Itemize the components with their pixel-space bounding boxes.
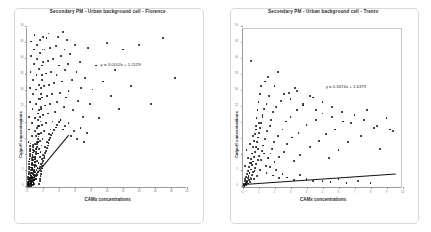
data-point	[29, 148, 31, 150]
data-point	[28, 163, 30, 165]
data-point	[250, 158, 252, 160]
data-point	[37, 112, 39, 114]
data-point	[254, 151, 256, 153]
data-point	[275, 106, 277, 108]
data-point	[41, 74, 43, 76]
data-point	[46, 95, 48, 97]
data-point	[48, 139, 50, 141]
data-point	[68, 122, 70, 124]
x-tick	[259, 187, 260, 189]
x-tick	[275, 187, 276, 189]
x-tick	[339, 187, 340, 189]
y-tick-label: 0	[22, 184, 24, 187]
data-point	[36, 148, 38, 150]
data-point	[34, 164, 36, 166]
data-point	[318, 140, 320, 142]
data-point	[274, 85, 276, 87]
data-point	[32, 79, 34, 81]
data-point	[43, 157, 45, 159]
data-point	[28, 128, 30, 130]
data-point	[70, 135, 72, 137]
y-tick	[25, 170, 27, 171]
data-point	[57, 36, 59, 38]
data-point	[30, 55, 32, 57]
data-point	[33, 63, 35, 65]
data-point	[38, 148, 40, 150]
data-point	[42, 138, 44, 140]
y-tick	[25, 42, 27, 43]
data-point	[38, 98, 40, 100]
data-point	[288, 92, 290, 94]
data-point	[312, 96, 314, 98]
data-point	[69, 53, 71, 55]
data-point	[68, 90, 70, 92]
data-point	[36, 58, 38, 60]
y-tick	[241, 74, 243, 75]
data-point	[342, 120, 344, 122]
data-point	[256, 141, 258, 143]
data-point	[44, 152, 46, 154]
data-point	[36, 146, 38, 148]
data-point	[39, 116, 41, 118]
data-point	[41, 64, 43, 66]
data-point	[254, 167, 256, 169]
data-point	[27, 181, 29, 183]
data-point	[65, 96, 67, 98]
data-point	[267, 76, 269, 78]
plot-wrap-right: 01234567891005101520253035404550y = 0.34…	[216, 0, 431, 232]
data-point	[66, 39, 68, 41]
data-point	[150, 103, 152, 105]
data-point	[60, 55, 62, 57]
data-point	[315, 109, 317, 111]
data-point	[55, 45, 57, 47]
data-point	[260, 85, 262, 87]
data-point	[357, 180, 359, 182]
data-point	[34, 34, 36, 36]
x-tick	[59, 187, 60, 189]
x-tick-label: 2	[274, 191, 276, 194]
data-point	[48, 32, 50, 34]
y-tick	[25, 138, 27, 139]
data-point	[28, 168, 30, 170]
data-point	[277, 135, 279, 137]
data-point	[257, 109, 259, 111]
data-point	[82, 116, 84, 118]
data-point	[264, 138, 266, 140]
data-point	[257, 148, 259, 150]
data-point	[258, 132, 260, 134]
data-point	[34, 166, 36, 168]
y-tick	[241, 106, 243, 107]
y-tick-label: 25	[21, 104, 24, 107]
x-tick	[171, 187, 172, 189]
data-point	[51, 93, 53, 95]
data-point	[291, 136, 293, 138]
figure-container: Secondary PM - Urban background cell - F…	[0, 0, 431, 232]
data-point	[249, 143, 251, 145]
data-point	[29, 145, 31, 147]
y-tick	[25, 154, 27, 155]
data-point	[330, 181, 332, 183]
data-point	[266, 130, 268, 132]
data-point	[389, 128, 391, 130]
data-point	[286, 176, 288, 178]
y-tick-label: 40	[235, 56, 238, 59]
data-point	[346, 182, 348, 184]
data-point	[28, 173, 30, 175]
data-point	[286, 143, 288, 145]
y-tick	[25, 90, 27, 91]
x-tick	[139, 187, 140, 189]
data-point	[259, 127, 261, 129]
data-point	[27, 184, 29, 186]
y-tick	[25, 58, 27, 59]
data-point	[37, 119, 39, 121]
y-tick-label: 40	[21, 56, 24, 59]
data-point	[260, 159, 262, 161]
data-point	[249, 172, 251, 174]
data-point	[253, 156, 255, 158]
data-point	[102, 80, 104, 82]
data-point	[38, 136, 40, 138]
data-point	[79, 61, 81, 63]
data-point	[30, 143, 32, 145]
data-point	[42, 36, 44, 38]
y-tick-label: 5	[22, 168, 24, 171]
